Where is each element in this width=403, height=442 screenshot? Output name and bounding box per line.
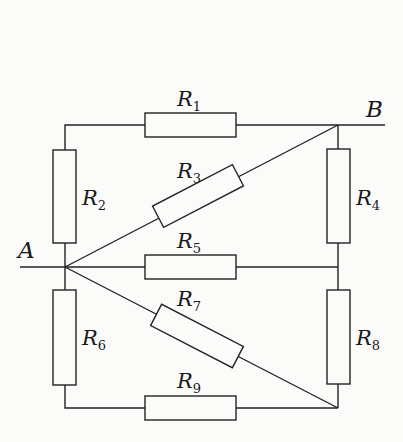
label-r1: R1: [176, 87, 201, 114]
label-r7: R7: [176, 287, 201, 314]
resistor-r1: [145, 113, 236, 137]
circuit-diagram: R1 R2 R3 R4 R5 R6 R7 R8 R9 A B: [0, 0, 403, 442]
wire-bottom-left: [65, 385, 145, 408]
label-r9: R9: [176, 369, 201, 396]
label-r3: R3: [176, 159, 201, 186]
wire-top-left: [65, 125, 145, 150]
label-r6: R6: [81, 326, 106, 353]
label-r5: R5: [176, 229, 201, 256]
resistor-r4: [327, 149, 350, 243]
label-r4: R4: [355, 186, 380, 213]
node-label-b: B: [365, 96, 383, 122]
resistor-r2: [53, 150, 76, 243]
resistor-r9: [145, 396, 236, 420]
resistor-r6: [53, 290, 76, 385]
label-r8: R8: [355, 326, 380, 353]
label-r2: R2: [81, 186, 106, 213]
node-label-a: A: [16, 237, 35, 263]
resistor-r5: [145, 255, 236, 279]
resistor-r8: [327, 290, 350, 384]
